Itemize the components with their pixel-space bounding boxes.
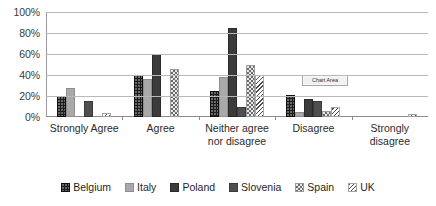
bar-group [275, 12, 351, 117]
x-axis-category-labels: Strongly AgreeAgreeNeither agreenor disa… [46, 122, 428, 164]
bar-slovenia-neither-agree-nor-disagree[interactable] [237, 107, 246, 118]
legend-item-spain[interactable]: Spain [295, 182, 334, 193]
bar-poland-neither-agree-nor-disagree[interactable] [228, 28, 237, 117]
x-tick-mark [275, 117, 276, 120]
bar-slovenia-strongly-agree[interactable] [84, 101, 93, 117]
x-axis-label: Stronglydisagree [352, 122, 428, 164]
x-axis-label: Neither agreenor disagree [199, 122, 275, 164]
x-axis-label-line: nor disagree [200, 135, 274, 148]
gridline [46, 75, 428, 76]
bar-spain-disagree[interactable] [322, 111, 331, 117]
x-axis-label-line: Disagree [276, 122, 350, 135]
bar-group [122, 12, 198, 117]
legend-swatch-poland-icon [170, 183, 179, 192]
bar-chart: 100%80%60%40%20%0% Chart Area Strongly A… [0, 0, 436, 206]
bar-poland-disagree[interactable] [304, 99, 313, 117]
bar-cluster [199, 12, 275, 117]
legend-item-poland[interactable]: Poland [170, 182, 215, 193]
bar-italy-neither-agree-nor-disagree[interactable] [219, 77, 228, 117]
y-tick-label: 40% [19, 70, 40, 80]
legend-item-slovenia[interactable]: Slovenia [229, 182, 281, 193]
gridline [46, 54, 428, 55]
legend-label: UK [360, 182, 375, 193]
x-axis-label-line: Agree [123, 122, 197, 135]
bar-poland-agree[interactable] [152, 54, 161, 117]
gridline [46, 33, 428, 34]
plot-area[interactable]: Chart Area [46, 12, 428, 117]
x-tick-mark [199, 117, 200, 120]
y-tick-label: 100% [14, 7, 40, 17]
bar-belgium-neither-agree-nor-disagree[interactable] [210, 91, 219, 117]
bar-uk-disagree[interactable] [331, 107, 340, 118]
legend-label: Belgium [73, 182, 111, 193]
x-axis-label: Agree [122, 122, 198, 164]
chart-legend: BelgiumItalyPolandSloveniaSpainUK [0, 176, 436, 198]
bar-belgium-disagree[interactable] [286, 95, 295, 117]
y-tick-label: 0% [25, 112, 40, 122]
x-axis-label: Disagree [275, 122, 351, 164]
x-axis-label-line: Neither agree [200, 122, 274, 135]
x-tick-mark [122, 117, 123, 120]
y-tick-label: 60% [19, 49, 40, 59]
gridline [46, 96, 428, 97]
legend-label: Poland [182, 182, 215, 193]
y-tick-label: 20% [19, 91, 40, 101]
legend-label: Spain [307, 182, 334, 193]
x-tick-mark [352, 117, 353, 120]
x-axis-label-line: Strongly Agree [47, 122, 121, 135]
bar-groups [46, 12, 428, 117]
legend-item-belgium[interactable]: Belgium [61, 182, 111, 193]
bar-cluster [122, 12, 198, 117]
legend-label: Slovenia [241, 182, 281, 193]
y-axis: 100%80%60%40%20%0% [0, 0, 44, 172]
chart-area-tooltip: Chart Area [302, 75, 348, 86]
x-axis-label-line: Strongly [353, 122, 427, 135]
legend-swatch-slovenia-icon [229, 183, 238, 192]
plot-wrapper: 100%80%60%40%20%0% Chart Area Strongly A… [0, 0, 436, 172]
bar-group [352, 12, 428, 117]
bar-group [199, 12, 275, 117]
legend-swatch-spain-icon [295, 183, 304, 192]
bar-cluster [275, 12, 351, 117]
legend-swatch-uk-icon [348, 183, 357, 192]
bar-slovenia-disagree[interactable] [313, 101, 322, 117]
bar-italy-strongly-agree[interactable] [66, 88, 75, 117]
bar-italy-disagree[interactable] [295, 112, 304, 117]
bar-cluster [352, 12, 428, 117]
bar-uk-strongly-agree[interactable] [102, 113, 111, 117]
legend-item-uk[interactable]: UK [348, 182, 375, 193]
bar-uk-strongly-disagree[interactable] [408, 114, 417, 117]
legend-item-italy[interactable]: Italy [125, 182, 156, 193]
bar-spain-neither-agree-nor-disagree[interactable] [246, 65, 255, 118]
x-axis-label-line: disagree [353, 135, 427, 148]
x-axis-label: Strongly Agree [46, 122, 122, 164]
y-tick-label: 80% [19, 28, 40, 38]
legend-swatch-belgium-icon [61, 183, 70, 192]
legend-label: Italy [137, 182, 156, 193]
bar-group [46, 12, 122, 117]
bar-cluster [46, 12, 122, 117]
bar-belgium-strongly-agree[interactable] [57, 96, 66, 117]
gridline [46, 12, 428, 13]
legend-swatch-italy-icon [125, 183, 134, 192]
bar-italy-agree[interactable] [143, 79, 152, 117]
